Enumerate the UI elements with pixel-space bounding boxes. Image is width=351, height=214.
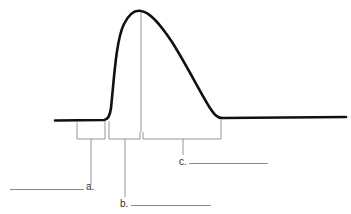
- bracket-a: [77, 121, 105, 185]
- answer-blank-c[interactable]: [189, 163, 268, 164]
- label-b: b.: [120, 199, 128, 209]
- answer-blank-b[interactable]: [131, 205, 211, 206]
- waveform-curve: [55, 11, 346, 121]
- label-c: c.: [179, 157, 187, 167]
- waveform-diagram: [0, 0, 351, 214]
- label-a: a.: [86, 182, 94, 192]
- bracket-b: [109, 121, 140, 197]
- answer-blank-a[interactable]: [10, 189, 84, 190]
- bracket-c: [143, 119, 221, 155]
